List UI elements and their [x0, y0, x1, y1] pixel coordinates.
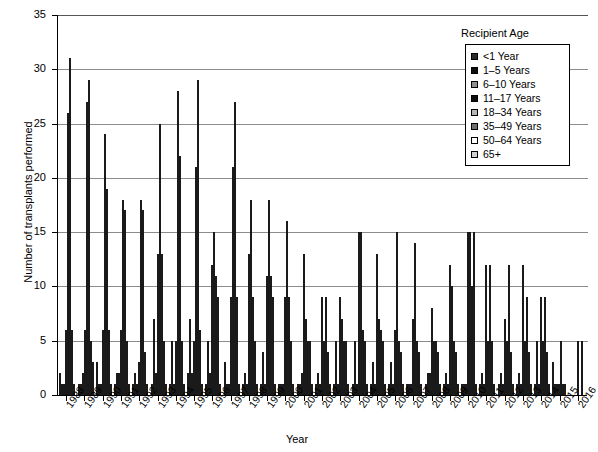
legend-item-label: 1–5 Years	[483, 64, 530, 76]
year-group	[405, 15, 423, 395]
year-group	[131, 15, 149, 395]
year-group	[259, 15, 277, 395]
legend-item-label: 65+	[483, 148, 501, 160]
year-group	[295, 15, 313, 395]
y-tick-label: 5	[16, 335, 46, 346]
legend-title: Recipient Age	[461, 27, 529, 39]
year-group	[314, 15, 332, 395]
x-axis-title: Year	[0, 433, 594, 445]
year-group	[241, 15, 259, 395]
bar	[577, 341, 579, 395]
legend-swatch-icon	[471, 95, 478, 102]
legend-item[interactable]: 35–49 Years	[471, 119, 564, 133]
year-group	[204, 15, 222, 395]
legend-item[interactable]: 1–5 Years	[471, 63, 564, 77]
legend-item[interactable]: 50–64 Years	[471, 133, 564, 147]
legend-item[interactable]: <1 Year	[471, 49, 564, 63]
year-group	[58, 15, 76, 395]
year-group	[387, 15, 405, 395]
legend-item-label: <1 Year	[483, 50, 519, 62]
legend-item-label: 35–49 Years	[483, 120, 541, 132]
year-group	[95, 15, 113, 395]
year-group	[423, 15, 441, 395]
y-tick-label: 15	[16, 226, 46, 237]
legend-item-label: 18–34 Years	[483, 106, 541, 118]
year-group	[332, 15, 350, 395]
legend-swatch-icon	[471, 123, 478, 130]
legend-swatch-icon	[471, 151, 478, 158]
y-tick-label: 20	[16, 172, 46, 183]
bar	[236, 297, 238, 395]
bar	[217, 297, 219, 395]
legend-swatch-icon	[471, 137, 478, 144]
legend-swatch-icon	[471, 67, 478, 74]
legend-item[interactable]: 18–34 Years	[471, 105, 564, 119]
year-group	[369, 15, 387, 395]
y-tick-label: 30	[16, 63, 46, 74]
bar	[581, 341, 583, 395]
year-group	[350, 15, 368, 395]
legend-item[interactable]: 6–10 Years	[471, 77, 564, 91]
year-group	[222, 15, 240, 395]
y-tick-label: 25	[16, 118, 46, 129]
year-group	[76, 15, 94, 395]
year-group	[149, 15, 167, 395]
year-group	[168, 15, 186, 395]
legend-item[interactable]: 11–17 Years	[471, 91, 564, 105]
bar	[473, 232, 475, 395]
year-group	[569, 15, 587, 395]
year-group	[442, 15, 460, 395]
legend-swatch-icon	[471, 81, 478, 88]
legend-swatch-icon	[471, 109, 478, 116]
legend-item-label: 11–17 Years	[483, 92, 541, 104]
legend-item-label: 6–10 Years	[483, 78, 536, 90]
legend-item[interactable]: 65+	[471, 147, 564, 161]
legend-swatch-icon	[471, 53, 478, 60]
bar	[272, 297, 274, 395]
y-tick-label: 10	[16, 280, 46, 291]
legend-box: <1 Year1–5 Years6–10 Years11–17 Years18–…	[465, 44, 570, 166]
y-tick-label: 0	[16, 389, 46, 400]
legend-item-label: 50–64 Years	[483, 134, 541, 146]
year-group	[186, 15, 204, 395]
y-tick-label: 35	[16, 9, 46, 20]
year-group	[113, 15, 131, 395]
year-group	[277, 15, 295, 395]
